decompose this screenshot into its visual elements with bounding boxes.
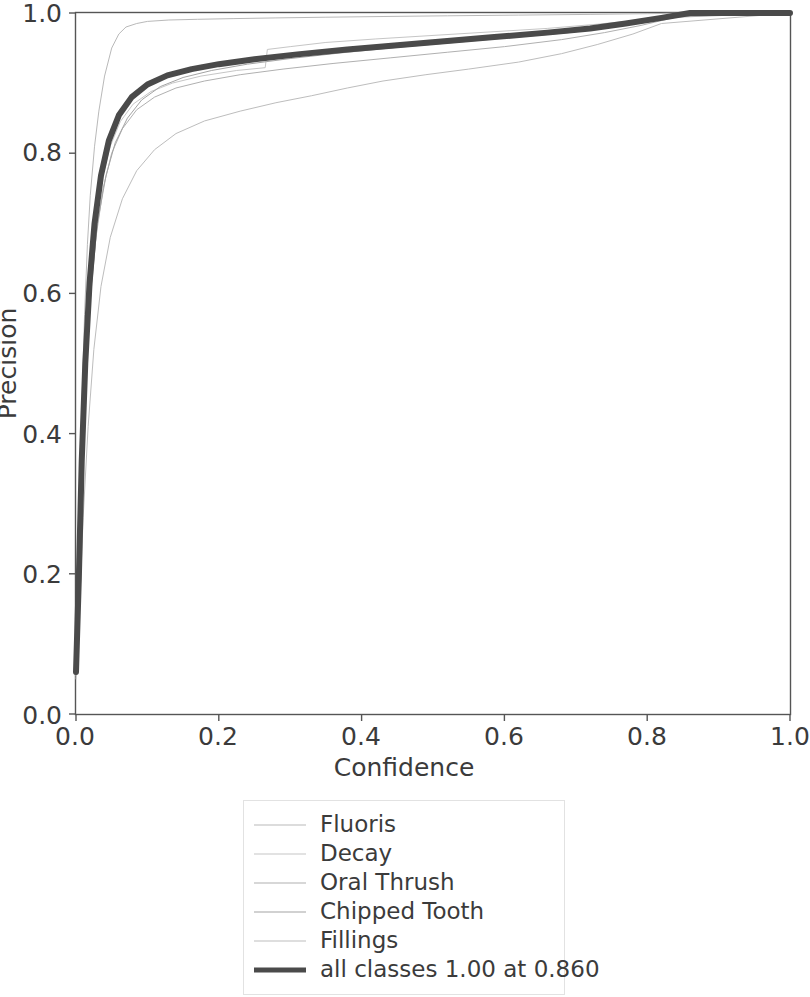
- y-axis-title: Precision: [0, 308, 23, 420]
- legend-line-swatch-decay: [254, 847, 306, 861]
- x-tick-label-4: 0.8: [627, 722, 667, 751]
- legend-item-all-classes[interactable]: all classes 1.00 at 0.860: [254, 955, 554, 984]
- curve-fillings: [76, 13, 790, 679]
- x-tick-label-2: 0.4: [341, 722, 381, 751]
- legend-item-fillings[interactable]: Fillings: [254, 926, 554, 955]
- legend-line-swatch-chipped-tooth: [254, 905, 306, 919]
- legend: Fluoris Decay Oral Thrush Chipped Tooth …: [243, 800, 565, 995]
- legend-item-decay[interactable]: Decay: [254, 839, 554, 868]
- legend-item-oral-thrush[interactable]: Oral Thrush: [254, 868, 554, 897]
- curve-decay: [76, 13, 790, 672]
- legend-line-swatch-oral-thrush: [254, 876, 306, 890]
- curve-fluoris: [76, 13, 790, 665]
- legend-item-chipped-tooth[interactable]: Chipped Tooth: [254, 897, 554, 926]
- legend-label-all-classes: all classes 1.00 at 0.860: [320, 958, 600, 981]
- x-tick-label-3: 0.6: [484, 722, 524, 751]
- data-curves: [76, 13, 790, 679]
- legend-line-swatch-fillings: [254, 934, 306, 948]
- legend-line-swatch-all-classes: [254, 963, 306, 977]
- legend-label-fluoris: Fluoris: [320, 813, 396, 836]
- y-axis-title-wrap: Precision: [0, 0, 28, 727]
- legend-label-chipped-tooth: Chipped Tooth: [320, 900, 484, 923]
- legend-label-oral-thrush: Oral Thrush: [320, 871, 455, 894]
- tick-marks: [69, 13, 790, 721]
- x-tick-label-5: 1.0: [770, 722, 810, 751]
- curve-oral-thrush: [76, 13, 790, 675]
- legend-line-swatch-fluoris: [254, 818, 306, 832]
- legend-label-fillings: Fillings: [320, 929, 398, 952]
- legend-label-decay: Decay: [320, 842, 392, 865]
- x-tick-label-1: 0.2: [198, 722, 238, 751]
- curve-all-classes-1-00-at-0-860: [76, 13, 790, 672]
- legend-item-fluoris[interactable]: Fluoris: [254, 810, 554, 839]
- curve-chipped-tooth: [76, 13, 790, 672]
- x-axis-title: Confidence: [0, 753, 808, 782]
- plot-frame: [76, 13, 791, 715]
